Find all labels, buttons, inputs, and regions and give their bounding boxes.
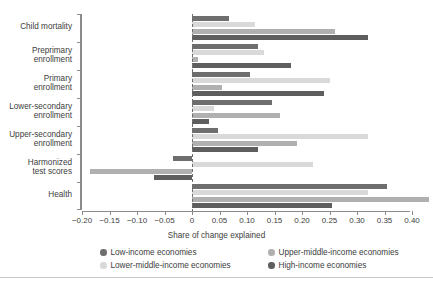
x-axis-tick-label: −0.15 [99,216,119,225]
category-label-line: Harmonized [28,158,72,167]
x-axis-tick [412,211,413,215]
bar [154,175,193,180]
legend-item[interactable]: High-income economies [268,261,366,270]
x-axis-tick [385,211,386,215]
zero-reference-line [192,14,193,212]
bar [192,16,229,21]
bar [192,162,313,167]
x-axis-tick-label: −0.20 [72,216,92,225]
bar [192,147,258,152]
category-label-line: Primary [34,74,72,83]
x-axis-tick [192,211,193,215]
x-axis-tick-label: 0 [190,216,194,225]
bar [192,119,209,124]
legend-item[interactable]: Lower-middle-income economies [100,261,231,270]
legend-label: Upper-middle-income economies [279,248,399,257]
bar [192,141,297,146]
legend-swatch-circle-icon [100,262,107,269]
bar [192,78,330,83]
category-label: Harmonizedtest scores [28,158,72,177]
bar [192,91,324,96]
legend-swatch-circle-icon [100,249,107,256]
category-label-line: enrollment [34,83,72,92]
bar [192,50,264,55]
bar [192,22,255,27]
category-label-line: Health [48,190,72,199]
x-axis-tick [357,211,358,215]
x-axis-tick [137,211,138,215]
x-axis-tick-label: 0.05 [212,216,228,225]
category-label-line: enrollment [9,139,72,148]
category-label-line: Lower-secondary [9,102,72,111]
bar [192,134,368,139]
x-axis-title: Share of change explained [0,231,433,240]
bar [192,29,335,34]
legend-item[interactable]: Low-income economies [100,248,197,257]
bar [192,106,214,111]
bar [192,44,258,49]
legend-label: High-income economies [279,261,367,270]
bar [192,100,272,105]
legend-swatch-circle-icon [268,262,275,269]
bar [192,63,291,68]
bar [192,190,368,195]
category-label: Child mortality [20,22,72,31]
x-axis-spine [82,211,410,212]
category-label-line: enrollment [32,55,72,64]
bar [192,184,387,189]
x-axis-tick [275,211,276,215]
x-axis-tick-label: 0.20 [294,216,310,225]
legend-item[interactable]: Upper-middle-income economies [268,248,399,257]
bar [173,156,192,161]
legend-label: Lower-middle-income economies [111,261,231,270]
x-axis-tick [165,211,166,215]
bar [192,35,368,40]
plot-area [82,14,410,210]
x-axis-tick-label: 0.30 [349,216,365,225]
x-axis-tick [220,211,221,215]
category-label: Primaryenrollment [34,74,72,93]
x-axis-tick-label: −0.10 [127,216,147,225]
legend-swatch-circle-icon [268,249,275,256]
bar [192,85,222,90]
x-axis-tick [330,211,331,215]
bar [192,72,250,77]
category-label: Upper-secondaryenrollment [9,130,72,149]
bar [192,197,429,202]
x-axis-tick-label: 0.15 [267,216,283,225]
category-label-line: test scores [28,167,72,176]
bar [192,113,280,118]
category-label-line: Child mortality [20,22,72,31]
legend-label: Low-income economies [111,248,197,257]
bar [192,203,332,208]
x-axis-tick-label: 0.10 [239,216,255,225]
x-axis-tick-label: −0.05 [154,216,174,225]
category-label: Lower-secondaryenrollment [9,102,72,121]
x-axis-tick-label: 0.25 [322,216,338,225]
x-axis-tick [247,211,248,215]
category-label: Health [48,190,72,199]
x-axis-tick [302,211,303,215]
category-axis-labels: Child mortalityPreprimaryenrollmentPrima… [0,14,78,210]
x-axis-tick-label: 0.40 [404,216,420,225]
category-label-line: Preprimary [32,46,72,55]
x-axis-tick [82,211,83,215]
chart-figure: Child mortalityPreprimaryenrollmentPrima… [0,0,433,286]
category-label-line: Upper-secondary [9,130,72,139]
footer-divider [0,277,433,278]
x-axis-tick [110,211,111,215]
x-axis-tick-label: 0.35 [377,216,393,225]
category-label: Preprimaryenrollment [32,46,72,65]
category-label-line: enrollment [9,111,72,120]
bar [90,169,192,174]
bar [192,128,218,133]
